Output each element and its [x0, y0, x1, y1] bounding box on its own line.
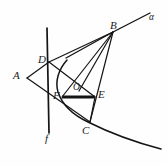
label-D: D	[38, 54, 46, 65]
geometry-figure: α B D A O E F C f	[0, 0, 167, 166]
label-f: f	[45, 133, 48, 144]
figure-canvas	[0, 0, 167, 166]
label-A: A	[13, 70, 20, 81]
label-F: F	[53, 90, 60, 101]
segment-DB	[49, 32, 113, 62]
segment-EC	[90, 97, 95, 122]
line-f	[47, 28, 49, 133]
segment-FB	[62, 32, 113, 97]
label-C: C	[82, 125, 89, 136]
segment-CB	[90, 32, 113, 122]
label-O: O	[73, 83, 80, 93]
label-E: E	[98, 89, 105, 100]
label-alpha: α	[149, 13, 154, 23]
label-B: B	[110, 20, 117, 31]
conic-curve	[57, 60, 161, 149]
